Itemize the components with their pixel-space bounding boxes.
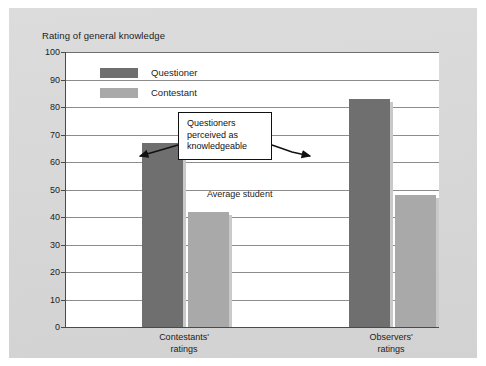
- legend-swatch-questioner: [100, 68, 138, 78]
- legend-item-questioner: Questioner: [100, 64, 197, 81]
- figure-panel: Rating of general knowledge 100908070605…: [9, 8, 477, 358]
- bar-questioner-1: [142, 143, 183, 327]
- average-student-note: Average student: [207, 189, 272, 199]
- annotation-callout: Questioners perceived as knowledgeable: [178, 112, 272, 160]
- y-tick-label-30: 30: [50, 240, 60, 250]
- x-axis-label-2-line-1: Observers': [331, 332, 451, 344]
- x-axis-label-1-line-1: Contestants': [124, 332, 244, 344]
- bar-questioner-2: [349, 99, 390, 327]
- y-tick-label-70: 70: [50, 130, 60, 140]
- x-axis-label-1-line-2: ratings: [124, 344, 244, 356]
- figure: Rating of general knowledge 100908070605…: [0, 0, 486, 366]
- y-tick-label-90: 90: [50, 75, 60, 85]
- callout-line-2: perceived as: [187, 130, 264, 142]
- plot-inner: Questioners perceived as knowledgeable A…: [66, 52, 439, 327]
- legend: Questioner Contestant: [100, 64, 197, 104]
- y-tick-label-50: 50: [50, 185, 60, 195]
- chart-title: Rating of general knowledge: [42, 30, 165, 41]
- callout-line-1: Questioners: [187, 118, 264, 130]
- callout-line-3: knowledgeable: [187, 141, 264, 153]
- gridline-100: [66, 52, 439, 53]
- y-tick-label-80: 80: [50, 102, 60, 112]
- y-tick-label-10: 10: [50, 295, 60, 305]
- legend-label-questioner: Questioner: [151, 67, 197, 78]
- legend-label-contestant: Contestant: [151, 87, 197, 98]
- legend-swatch-contestant: [100, 88, 138, 98]
- x-axis-label-1: Contestants'ratings: [124, 332, 244, 355]
- x-axis-label-2-line-2: ratings: [331, 344, 451, 356]
- arrow-right: [272, 145, 310, 156]
- y-tick-label-20: 20: [50, 267, 60, 277]
- y-tick-label-100: 100: [45, 47, 60, 57]
- bar-contestant-2: [395, 195, 436, 327]
- plot-area: Questioners perceived as knowledgeable A…: [65, 52, 439, 328]
- bar-contestant-1: [188, 212, 229, 328]
- y-axis-tick-labels: 1009080706050403020100: [31, 52, 60, 327]
- x-axis-label-2: Observers'ratings: [331, 332, 451, 355]
- y-tick-label-60: 60: [50, 157, 60, 167]
- y-tick-label-0: 0: [55, 322, 60, 332]
- legend-item-contestant: Contestant: [100, 84, 197, 101]
- y-tick-label-40: 40: [50, 212, 60, 222]
